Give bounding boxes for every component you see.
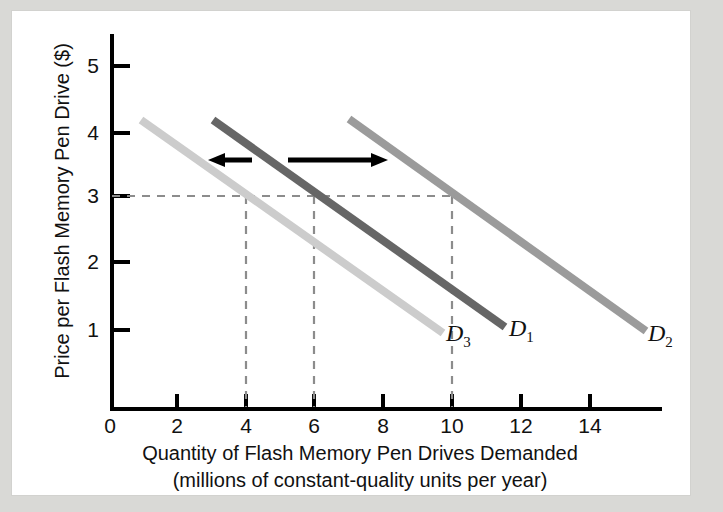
- curve-label-d1-subscript: 1: [526, 329, 534, 345]
- y-tick-label-3: 3: [82, 185, 104, 206]
- curve-label-d2-subscript: 2: [665, 334, 673, 350]
- x-tick-label-12: 12: [503, 415, 539, 436]
- x-tick-label-14: 14: [572, 415, 608, 436]
- curve-label-d3-letter: D: [446, 320, 463, 346]
- curve-label-d1: D1: [509, 315, 534, 346]
- shift-arrows: [208, 153, 388, 167]
- x-axis-label-line1: Quantity of Flash Memory Pen Drives Dema…: [60, 440, 660, 467]
- x-tick-label-8: 8: [370, 415, 396, 436]
- x-tick-label-2: 2: [164, 415, 190, 436]
- x-tick-label-0: 0: [97, 415, 123, 436]
- curve-label-d3-subscript: 3: [463, 334, 471, 350]
- curve-label-d1-letter: D: [509, 315, 526, 341]
- x-axis-ticks: [177, 394, 590, 409]
- figure-root: 5 4 3 2 1 0 2 4 6 8 10 12 14 D3 D1 D2 Pr…: [0, 0, 723, 512]
- y-axis-ticks: [112, 66, 130, 330]
- y-tick-label-5: 5: [82, 55, 104, 76]
- shift-right-arrow: [288, 153, 388, 167]
- y-axis-label-text: Price per Flash Memory Pen Drive ($): [51, 43, 74, 379]
- y-axis-label: Price per Flash Memory Pen Drive ($): [47, 31, 77, 391]
- curve-label-d3: D3: [446, 320, 471, 351]
- y-tick-label-4: 4: [82, 122, 104, 143]
- y-tick-label-1: 1: [82, 319, 104, 340]
- shift-left-arrow: [208, 153, 252, 167]
- demand-curve-d1[interactable]: [213, 120, 505, 327]
- axis-lines: [110, 34, 662, 410]
- x-tick-label-10: 10: [434, 415, 470, 436]
- curve-label-d2: D2: [648, 320, 673, 351]
- x-axis-label: Quantity of Flash Memory Pen Drives Dema…: [60, 440, 660, 494]
- shift-right-arrow-head: [371, 153, 388, 167]
- y-tick-label-2: 2: [82, 251, 104, 272]
- curve-label-d2-letter: D: [648, 320, 665, 346]
- x-axis-label-line2: (millions of constant-quality units per …: [60, 467, 660, 494]
- x-tick-label-4: 4: [233, 415, 259, 436]
- x-tick-label-6: 6: [301, 415, 327, 436]
- demand-curves: [141, 119, 646, 333]
